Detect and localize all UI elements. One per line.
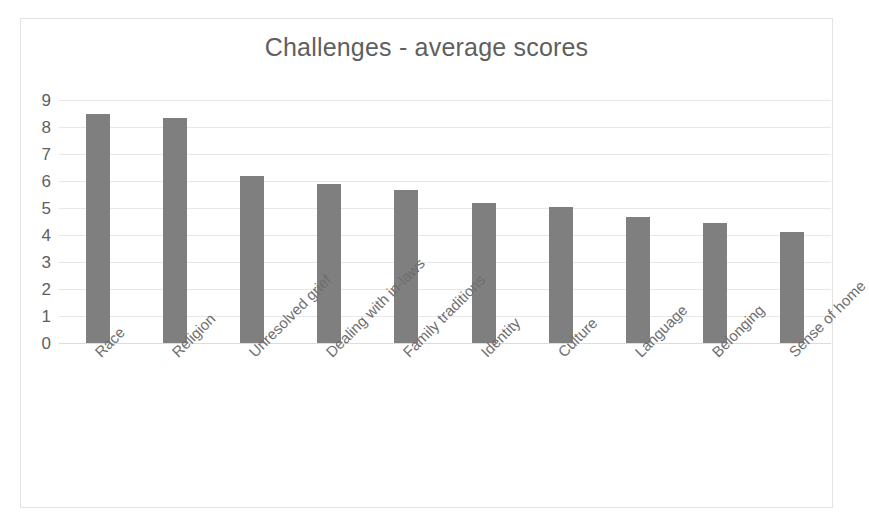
bar xyxy=(240,176,264,343)
y-axis-tick-label: 4 xyxy=(42,227,51,244)
bar xyxy=(549,207,573,343)
bar xyxy=(703,223,727,343)
bar xyxy=(780,232,804,343)
y-axis-tick-label: 6 xyxy=(42,173,51,190)
y-axis-tick-label: 2 xyxy=(42,281,51,298)
y-axis-tick-label: 7 xyxy=(42,146,51,163)
gridline xyxy=(59,100,831,101)
bar xyxy=(626,217,650,343)
y-axis-tick-label: 5 xyxy=(42,200,51,217)
chart-title: Challenges - average scores xyxy=(21,33,832,62)
bar xyxy=(86,114,110,344)
chart-frame: Challenges - average scores 9876543210 R… xyxy=(20,18,833,508)
bar xyxy=(163,118,187,343)
y-axis-tick-label: 9 xyxy=(42,92,51,109)
y-axis-tick-label: 3 xyxy=(42,254,51,271)
y-axis-tick-label: 8 xyxy=(42,119,51,136)
y-axis-tick-label: 1 xyxy=(42,308,51,325)
bar xyxy=(317,184,341,343)
y-axis-tick-label: 0 xyxy=(42,335,51,352)
x-axis-tick-labels: RaceReligionUnresolved griefDealing with… xyxy=(59,349,831,499)
